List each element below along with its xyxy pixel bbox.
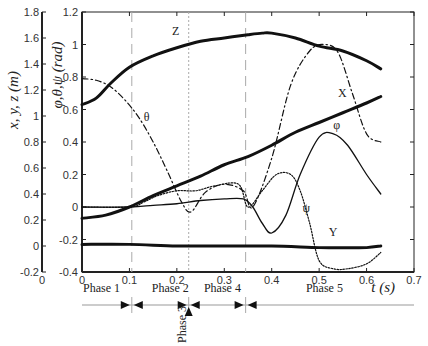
y-tick-label-m: 0.4 <box>24 188 39 200</box>
curve-label: θ <box>144 110 150 124</box>
phase-label: Phase 1 <box>83 281 120 295</box>
y-axis-label-m: x, y, z (m) <box>5 71 22 130</box>
series-ψ <box>82 172 381 269</box>
x-tick-label: 0.4 <box>264 274 279 286</box>
series-Z <box>82 33 381 105</box>
y-tick-label-rad: 1 <box>72 39 78 51</box>
y-tick-label-m: 1.2 <box>24 84 39 96</box>
y-tick-label-rad: -0.2 <box>59 234 78 246</box>
curve-label: ψ <box>303 201 311 215</box>
x-tick-label: 0.7 <box>406 274 421 286</box>
y-tick-label-m: 1.8 <box>24 6 39 18</box>
outer-axis-zero: 0 <box>39 274 45 286</box>
x-axis-label: t (s) <box>371 279 395 296</box>
phase-label: Phase 5 <box>306 281 343 295</box>
y-tick-label-rad: 0 <box>72 201 78 213</box>
y-tick-label-m: 0 <box>33 240 39 252</box>
y-tick-label-m: 1.6 <box>24 32 39 44</box>
trajectory-chart: 00.10.20.30.40.50.60.71.210.80.60.40.20-… <box>0 0 428 346</box>
y-axis-label-rad: φ,θ,ψ (rad) <box>49 41 66 108</box>
series-X <box>82 97 381 219</box>
series-Y <box>82 244 381 247</box>
curve-label: Z <box>172 24 179 38</box>
curve-label: φ <box>333 118 340 132</box>
y-tick-label-rad: 1.2 <box>63 6 78 18</box>
y-tick-label-rad: 0.4 <box>63 136 78 148</box>
y-tick-label-m: 0.2 <box>24 214 39 226</box>
y-tick-label-m: -0.2 <box>20 266 39 278</box>
y-tick-label-m: 0.6 <box>24 162 39 174</box>
x-tick-label: 0.1 <box>122 274 137 286</box>
y-tick-label-m: 1 <box>33 110 39 122</box>
phase-label: Phase 3 <box>175 306 189 343</box>
y-tick-label-m: 1.4 <box>24 58 39 70</box>
y-tick-label-rad: 0.2 <box>63 169 78 181</box>
phase-label: Phase 4 <box>204 281 241 295</box>
phase-label: Phase 2 <box>152 281 189 295</box>
curve-label: Y <box>329 225 338 239</box>
y-tick-label-rad: -0.4 <box>59 266 78 278</box>
curve-label: X <box>338 86 347 100</box>
y-tick-label-m: 0.8 <box>24 136 39 148</box>
